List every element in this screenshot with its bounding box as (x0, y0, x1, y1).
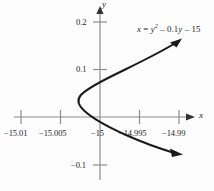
parabola-figure: y x −15.01 −15.005 −15 −14.995 −14.99 0.… (0, 0, 214, 191)
x-tick-label-3: −14.995 (119, 129, 146, 138)
x-tick-label-4: −14.99 (162, 129, 185, 138)
y-tick-label-0: 0.2 (76, 18, 86, 27)
equation-term-three: – 15 (182, 24, 200, 34)
x-tick-label-1: −15.005 (39, 129, 66, 138)
equation-term-two: – 0.1 (158, 24, 178, 34)
x-axis-arrow-icon (186, 113, 195, 120)
x-axis-label: x (199, 111, 203, 120)
equation-annotation: x = y2 – 0.1y – 15 (137, 25, 200, 34)
curve-lower-arrowhead-icon (170, 149, 183, 158)
y-tick-label-2: −0.1 (71, 161, 86, 170)
equation-equals: = (141, 24, 151, 34)
y-tick-label-1: 0.1 (76, 65, 86, 74)
y-axis-label: y (102, 0, 106, 9)
x-tick-label-0: −15.01 (4, 129, 27, 138)
x-tick-label-2: −15 (91, 129, 104, 138)
